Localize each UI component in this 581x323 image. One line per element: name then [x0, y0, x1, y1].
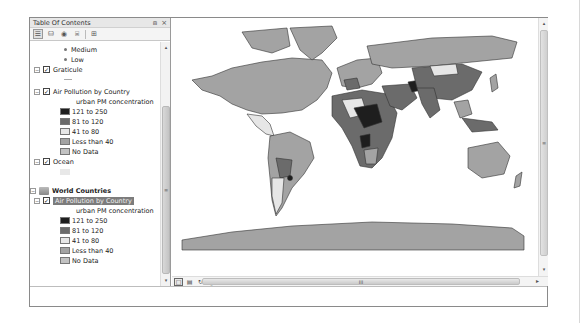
legend-class: 121 to 250 [60, 216, 107, 225]
layer-graticule[interactable]: − ✓ Graticule [34, 65, 83, 74]
line-symbol-icon [64, 79, 72, 80]
collapse-icon[interactable]: − [34, 159, 40, 165]
graticule-checkbox[interactable]: ✓ [43, 66, 50, 73]
collapse-icon[interactable]: − [34, 67, 40, 73]
layer-air-pollution-selected[interactable]: − ✓ Air Pollution by Country [34, 196, 134, 205]
layer-air-pollution[interactable]: − ✓ Air Pollution by Country [34, 87, 130, 96]
legend-class: 81 to 120 [60, 226, 103, 235]
horizontal-scroll-thumb[interactable]: III [202, 278, 520, 285]
legend-class: Less than 40 [60, 137, 113, 146]
list-by-drawing-order-button[interactable]: ☰ [33, 29, 43, 39]
scroll-down-arrow-icon[interactable]: ▾ [161, 277, 171, 285]
toc-tree: Medium Low − ✓ Graticule − ✓ Air Polluti… [30, 42, 160, 286]
list-by-selection-button[interactable]: ⌸ [72, 29, 82, 39]
scroll-right-arrow-icon[interactable]: ▸ [536, 277, 539, 284]
bullet-icon [64, 58, 67, 61]
legend-class: Less than 40 [60, 246, 113, 255]
toc-toolbar: ☰ ⛁ ◉ ⌸ ⊞ [30, 28, 170, 41]
toolbar-separator [85, 30, 86, 39]
window-edge-divider [579, 0, 580, 323]
collapse-icon[interactable]: − [34, 89, 40, 95]
map-display[interactable] [172, 18, 538, 276]
swatch-icon [60, 227, 70, 234]
grip-icon: III [359, 279, 363, 285]
swatch-icon [60, 257, 70, 264]
swatch-icon [60, 217, 70, 224]
legend-item-low: Low [64, 55, 84, 64]
swatch-icon [60, 118, 70, 125]
world-map [172, 18, 538, 276]
legend-class: 81 to 120 [60, 117, 103, 126]
swatch-icon [60, 247, 70, 254]
toc-title: Table Of Contents [33, 19, 91, 27]
list-by-source-button[interactable]: ⛁ [46, 29, 56, 39]
legend-field-name: urban PM concentration [76, 206, 154, 215]
air-pollution-checkbox[interactable]: ✓ [43, 88, 50, 95]
legend-class: 121 to 250 [60, 107, 107, 116]
ocean-symbol [60, 167, 70, 176]
scroll-thumb[interactable]: ≡ [540, 30, 548, 256]
scroll-down-arrow-icon[interactable]: ▾ [539, 266, 549, 274]
scroll-up-arrow-icon[interactable]: ▴ [539, 20, 549, 28]
legend-class: No Data [60, 256, 98, 265]
toc-vertical-scrollbar[interactable]: ▴ ≡ ▾ [160, 42, 170, 286]
pin-icon[interactable]: ⩎ [153, 19, 157, 27]
layout-view-button[interactable]: ▤ [185, 278, 194, 286]
swatch-icon [60, 148, 70, 155]
legend-item-medium: Medium [64, 45, 97, 54]
collapse-icon[interactable]: − [30, 188, 36, 194]
legend-field-name: urban PM concentration [76, 97, 154, 106]
swatch-icon [60, 237, 70, 244]
options-button[interactable]: ⊞ [89, 29, 99, 39]
legend-class: 41 to 80 [60, 236, 99, 245]
map-bottom-bar: □ ▤ ↻ ‖ ◂ III ▸ [172, 276, 548, 286]
graticule-symbol [64, 75, 72, 84]
swatch-icon [60, 128, 70, 135]
scroll-thumb[interactable]: ≡ [162, 106, 170, 274]
grip-icon: ≡ [164, 187, 168, 193]
layers-icon [39, 187, 49, 195]
close-icon[interactable]: × [161, 19, 167, 27]
status-area [30, 286, 547, 306]
table-of-contents-panel: Table Of Contents ⩎ × ☰ ⛁ ◉ ⌸ ⊞ Medium L… [30, 18, 171, 286]
ocean-checkbox[interactable]: ✓ [43, 158, 50, 165]
air-pollution-checkbox[interactable]: ✓ [43, 197, 50, 204]
bullet-icon [64, 48, 67, 51]
collapse-icon[interactable]: − [34, 198, 40, 204]
map-vertical-scrollbar[interactable]: ▴ ≡ ▾ [538, 18, 548, 276]
layer-ocean[interactable]: − ✓ Ocean [34, 157, 74, 166]
swatch-icon [60, 138, 70, 145]
toc-header: Table Of Contents ⩎ × [30, 18, 170, 28]
arcmap-window: Table Of Contents ⩎ × ☰ ⛁ ◉ ⌸ ⊞ Medium L… [29, 17, 548, 307]
list-by-visibility-button[interactable]: ◉ [59, 29, 69, 39]
legend-class: No Data [60, 147, 98, 156]
grip-icon: ≡ [542, 140, 546, 146]
data-view-button[interactable]: □ [174, 278, 183, 286]
swatch-icon [60, 108, 70, 115]
data-frame-world-countries[interactable]: − World Countries [30, 186, 111, 195]
swatch-icon [60, 169, 70, 175]
legend-class: 41 to 80 [60, 127, 99, 136]
scroll-up-arrow-icon[interactable]: ▴ [161, 44, 171, 52]
